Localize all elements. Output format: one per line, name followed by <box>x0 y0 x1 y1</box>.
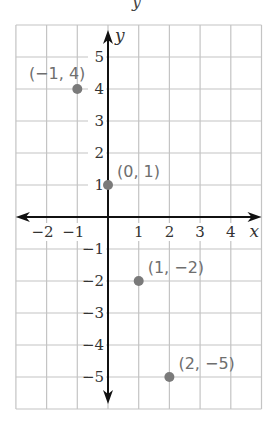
data-point <box>72 84 82 94</box>
point-label: (−1, 4) <box>29 64 85 83</box>
y-tick-label: 1 <box>94 176 104 194</box>
data-point <box>103 180 113 190</box>
point-label: (0, 1) <box>117 162 160 181</box>
y-tick-label: −1 <box>82 240 104 258</box>
x-tick-label: 4 <box>226 223 236 241</box>
point-label: (1, −2) <box>148 258 204 277</box>
x-tick-label: 1 <box>134 223 144 241</box>
coordinate-plane: −2−11234x54321−1−2−3−4−5y (−1, 4)(0, 1)(… <box>0 0 275 422</box>
y-tick-label: −4 <box>82 336 104 354</box>
y-tick-label: 3 <box>94 112 104 130</box>
y-tick-label: 4 <box>94 80 104 98</box>
y-tick-label: 2 <box>94 144 104 162</box>
y-tick-label: −2 <box>82 272 104 290</box>
x-tick-label: −1 <box>62 223 84 241</box>
x-axis-label: x <box>250 221 260 241</box>
y-tick-label: −5 <box>82 368 104 386</box>
y-tick-label: −3 <box>82 304 104 322</box>
x-tick-label: 3 <box>195 223 205 241</box>
x-tick-label: −2 <box>32 223 54 241</box>
y-axis-label: y <box>114 25 125 45</box>
point-label: (2, −5) <box>178 354 234 373</box>
x-tick-label: 2 <box>165 223 175 241</box>
y-tick-label: 5 <box>94 48 104 66</box>
data-point <box>164 372 174 382</box>
data-point <box>134 276 144 286</box>
